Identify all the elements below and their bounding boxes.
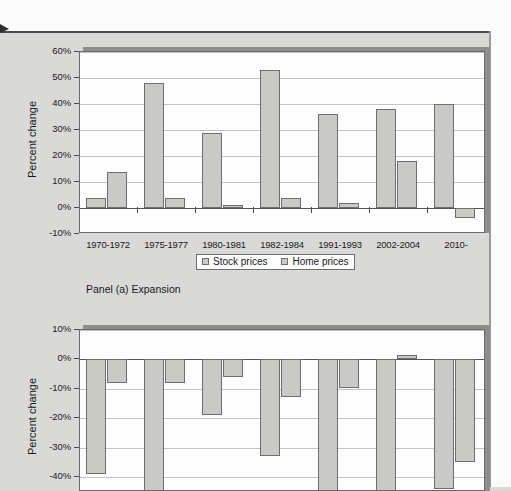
gridline [80, 330, 484, 331]
y-axis-title: Percent change [26, 378, 38, 455]
y-tick-mark [74, 388, 79, 389]
bar-home-prices-4 [339, 359, 359, 388]
y-tick-mark [74, 476, 79, 477]
bar-home-prices-0 [107, 359, 127, 383]
chart-frame-shadow-right [485, 325, 490, 491]
y-tick-mark [74, 447, 79, 448]
gridline [80, 477, 484, 478]
bar-stock-prices-1 [144, 359, 164, 491]
bar-home-prices-2 [223, 359, 243, 377]
bar-home-prices-5 [397, 355, 417, 359]
y-tick-label: -40% [31, 470, 71, 481]
bar-home-prices-1 [165, 359, 185, 383]
bar-stock-prices-0 [86, 359, 106, 474]
y-tick-mark [74, 329, 79, 330]
bar-stock-prices-3 [260, 359, 280, 456]
gridline [80, 448, 484, 449]
bar-stock-prices-5 [376, 359, 396, 491]
gridline [80, 418, 484, 419]
bar-stock-prices-6 [434, 359, 454, 489]
y-tick-label: 0% [31, 352, 71, 363]
chart-plot-area [79, 329, 485, 491]
bar-home-prices-6 [455, 359, 475, 462]
y-tick-mark [74, 417, 79, 418]
bar-stock-prices-2 [202, 359, 222, 415]
bar-home-prices-3 [281, 359, 301, 397]
y-tick-mark [74, 358, 79, 359]
y-tick-label: 10% [31, 323, 71, 334]
bar-stock-prices-4 [318, 359, 338, 491]
